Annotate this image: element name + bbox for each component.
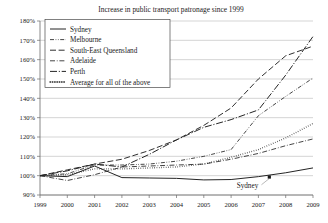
chart-container: Increase in public transport patronage s… [0,0,328,223]
x-axis-tick-label: 2005 [197,201,211,208]
x-axis-tick-label: 2000 [61,201,75,208]
line-chart: Increase in public transport patronage s… [0,0,328,223]
x-axis-tick-label: 2002 [115,201,128,208]
y-axis-tick-label: 140% [20,95,36,102]
annotation-label-sydney: Sydney [237,182,259,190]
y-axis-tick-label: 180% [20,17,36,24]
x-axis-tick-label: 2007 [252,201,266,208]
x-axis-tick-label: 2008 [279,201,293,208]
legend-item-label[interactable]: Sydney [70,26,92,34]
x-axis-tick-label: 1999 [33,201,47,208]
y-axis-tick-label: 150% [20,75,36,82]
y-axis-tick-label: 160% [20,56,36,63]
x-axis-tick-label: 2004 [170,201,184,208]
annotation-arrow-marker [268,175,271,178]
legend-item-label[interactable]: South-East Queensland [70,47,138,55]
x-axis-tick-label: 2001 [88,201,101,208]
chart-title: Increase in public transport patronage s… [98,5,244,14]
legend-item-label[interactable]: Adelaide [70,57,96,65]
legend-item-label[interactable]: Average for all of the above [70,79,150,87]
x-axis-tick-label: 2003 [143,201,157,208]
chart-legend: SydneyMelbourneSouth-East QueenslandAdel… [45,20,170,88]
y-axis-tick-label: 100% [20,172,36,179]
legend-item-label[interactable]: Melbourne [70,36,102,44]
y-axis-tick-label: 170% [20,37,36,44]
legend-item-label[interactable]: Perth [70,68,86,76]
y-axis-tick-label: 130% [20,114,36,121]
y-axis-tick-label: 90% [23,191,36,198]
x-axis-tick-label: 2009 [306,201,320,208]
x-axis-tick-label: 2006 [225,201,239,208]
y-axis-tick-label: 120% [20,133,36,140]
y-axis-tick-label: 110% [20,153,36,160]
